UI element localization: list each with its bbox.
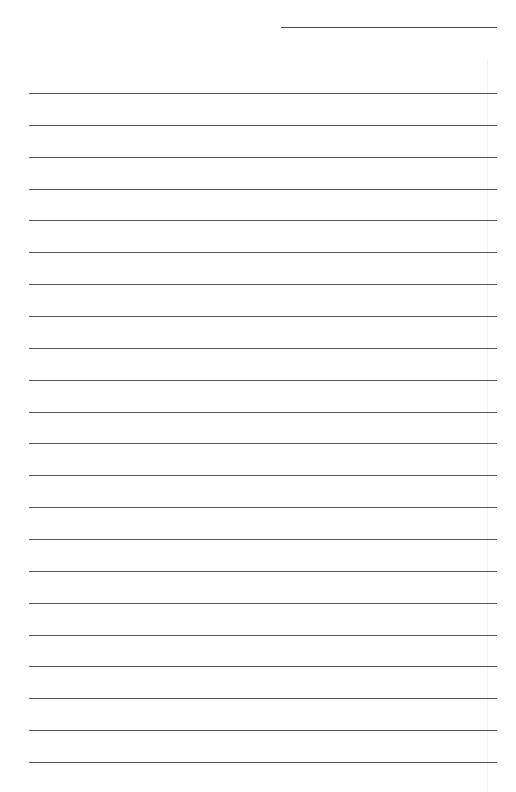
ruled-line — [29, 380, 497, 381]
ruled-line — [29, 507, 497, 508]
page-edge-shadow — [487, 60, 488, 792]
ruled-line — [29, 666, 497, 667]
ruled-line — [29, 220, 497, 221]
ruled-line — [29, 475, 497, 476]
ruled-line — [29, 571, 497, 572]
ruled-line — [29, 443, 497, 444]
ruled-line — [29, 93, 497, 94]
ruled-line — [29, 316, 497, 317]
ruled-line — [29, 603, 497, 604]
ruled-line — [29, 730, 497, 731]
ruled-line — [29, 539, 497, 540]
header-rule — [281, 27, 497, 28]
ruled-line — [29, 348, 497, 349]
ruled-line — [29, 157, 497, 158]
ruled-line — [29, 412, 497, 413]
ruled-line — [29, 762, 497, 763]
ruled-line — [29, 252, 497, 253]
ruled-line — [29, 125, 497, 126]
ruled-line — [29, 698, 497, 699]
lined-paper-page — [0, 0, 516, 792]
ruled-line — [29, 189, 497, 190]
ruled-line — [29, 635, 497, 636]
ruled-line — [29, 284, 497, 285]
